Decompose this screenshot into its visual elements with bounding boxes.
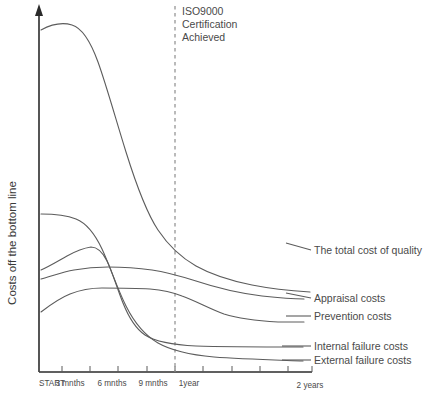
curve-appraisal-costs [41,267,304,299]
series-label-external-failure-costs: External failure costs [314,354,411,366]
x-tick-label-9-months: 9 mnths [138,379,167,388]
annotation-line-2: Certification [182,18,238,30]
series-label-total-cost-of-quality: The total cost of quality [314,244,423,256]
series-label-internal-failure-costs: Internal failure costs [314,340,408,352]
annotation-line-1: ISO9000 [182,5,224,17]
x-tick-label-2-years: 2 years [297,381,324,390]
y-axis-title: Costs off the bottom line [6,181,18,305]
x-tick-label-1-year: 1year [179,379,200,388]
series-label-prevention-costs: Prevention costs [314,310,392,322]
leader-line-total [286,243,311,250]
curve-prevention-costs [41,288,304,322]
series-label-appraisal-costs: Appraisal costs [314,292,385,304]
curve-internal-failure-costs [41,247,303,347]
x-tick-label-3-months: 3 mnths [55,379,84,388]
chart-canvas: Costs off the bottom line ISO9000 Certif… [0,0,439,400]
y-axis-arrow-icon [35,4,43,16]
iso9000-annotation: ISO9000 Certification Achieved [182,5,238,43]
annotation-line-3: Achieved [182,31,225,43]
x-tick-label-6-months: 6 mnths [97,379,126,388]
cost-of-quality-chart: Costs off the bottom line ISO9000 Certif… [0,0,439,400]
leader-line-appraisal [286,293,311,298]
y-axis [35,4,43,372]
